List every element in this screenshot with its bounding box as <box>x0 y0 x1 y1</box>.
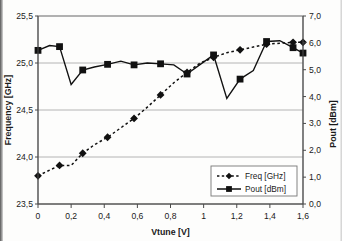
right-axis-tick-label: 7,0 <box>309 11 321 21</box>
legend-label: Pout [dBm] <box>245 184 286 194</box>
x-axis-tick-label: 0,2 <box>65 211 77 221</box>
data-point-marker-square <box>263 38 270 45</box>
left-axis-tick-label: 25,5 <box>16 11 33 21</box>
x-axis-tick-label: 1 <box>201 211 206 221</box>
series-line-freq <box>38 42 303 175</box>
y-axis-title: Frequency [GHz] <box>3 75 13 145</box>
x-axis-tick-label: 0,6 <box>131 211 143 221</box>
data-point-marker-square <box>131 61 138 68</box>
data-point-marker-square <box>104 61 111 68</box>
data-point-marker-square <box>79 67 86 74</box>
chart-legend: Freq [GHz]Pout [dBm] <box>211 166 297 196</box>
data-point-marker-square <box>56 43 63 50</box>
left-axis-tick-label: 25,0 <box>16 58 33 68</box>
data-point-marker-square <box>157 60 164 67</box>
dual-axis-line-chart: 23,524,024,525,025,50,01,02,03,04,05,06,… <box>0 0 342 241</box>
right-axis-tick-label: 5,0 <box>309 65 321 75</box>
chart-container: 23,524,024,525,025,50,01,02,03,04,05,06,… <box>0 0 342 241</box>
data-point-marker-square <box>290 44 297 51</box>
x-axis-tick-label: 1,4 <box>264 211 276 221</box>
right-axis-tick-label: 3,0 <box>309 118 321 128</box>
x-axis-tick-label: 1,2 <box>231 211 243 221</box>
x-axis-tick-label: 0 <box>36 211 41 221</box>
left-axis-tick-label: 24,0 <box>16 152 33 162</box>
x-axis-tick-label: 0,4 <box>98 211 110 221</box>
left-axis-tick-label: 24,5 <box>16 105 33 115</box>
legend-label: Freq [GHz] <box>245 171 286 181</box>
data-point-marker-diamond <box>236 46 244 54</box>
left-axis-tick-label: 23,5 <box>16 199 33 209</box>
data-point-marker-diamond <box>56 162 64 170</box>
y2-axis-title: Pout [dBm] <box>328 100 338 147</box>
series-line-pout <box>38 41 303 99</box>
data-point-marker-square <box>184 71 191 78</box>
x-axis-tick-label: 0,8 <box>165 211 177 221</box>
x-axis-tick-label: 1,6 <box>297 211 309 221</box>
right-axis-tick-label: 1,0 <box>309 172 321 182</box>
data-point-marker-square <box>237 76 244 83</box>
right-axis-tick-label: 2,0 <box>309 145 321 155</box>
x-axis-title: Vtune [V] <box>151 227 190 237</box>
right-axis-tick-label: 4,0 <box>309 92 321 102</box>
right-axis-tick-label: 6,0 <box>309 38 321 48</box>
data-point-marker-square <box>210 52 217 59</box>
data-series-group <box>34 38 307 180</box>
data-point-marker-square <box>226 186 232 192</box>
right-axis-tick-label: 0,0 <box>309 199 321 209</box>
